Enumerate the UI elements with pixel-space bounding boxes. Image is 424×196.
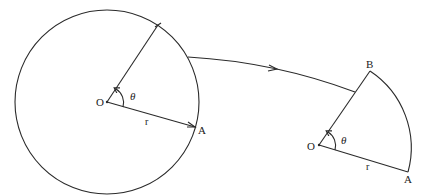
transform-arrow <box>188 57 355 92</box>
sector-point-a-label: A <box>404 173 412 185</box>
diagram-canvas: O θ r A O θ r A B <box>0 0 424 196</box>
radius-label: r <box>145 116 149 127</box>
sector-center-point <box>318 144 320 146</box>
angle-arc-icon <box>116 89 124 107</box>
sector-arc <box>370 71 411 172</box>
connector-curve <box>188 57 355 92</box>
sector-center-label: O <box>307 140 315 152</box>
right-figure: O θ r A B <box>307 58 412 185</box>
sector-point-b-label: B <box>366 58 373 70</box>
left-figure: O θ r A <box>15 10 206 194</box>
angle-label: θ <box>130 90 136 102</box>
sector-radius-oa <box>319 145 408 172</box>
center-point <box>106 101 108 103</box>
sector-angle-label: θ <box>341 134 347 146</box>
point-a-label: A <box>198 124 206 136</box>
sector-angle-arc-icon <box>328 132 336 150</box>
radius-oa <box>107 102 195 127</box>
center-label: O <box>96 96 104 108</box>
sector-radius-label: r <box>366 161 370 172</box>
